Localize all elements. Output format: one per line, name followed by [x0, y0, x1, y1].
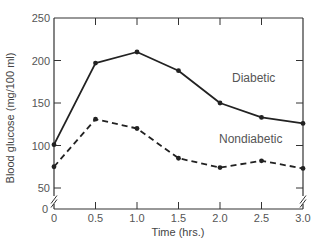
y-tick-label: 50	[38, 182, 50, 194]
data-point	[259, 115, 264, 120]
x-tick-label: 1.5	[171, 212, 186, 224]
data-point	[176, 156, 181, 161]
data-point	[259, 158, 264, 163]
x-tick-label: 0.5	[88, 212, 103, 224]
x-tick-label: 1.0	[129, 212, 144, 224]
nondiabetic-label: Nondiabetic	[219, 132, 282, 146]
data-point	[135, 126, 140, 131]
axis-break-mark	[51, 196, 57, 204]
y-tick-label: 100	[32, 140, 50, 152]
axis-ticks	[54, 18, 303, 209]
series-lines	[52, 50, 306, 171]
series-diabetic-line	[54, 52, 303, 145]
x-tick-label: 2.5	[254, 212, 269, 224]
y-axis-title: Blood glucose (mg/100 ml)	[4, 53, 16, 184]
y-tick-label: 0	[42, 203, 48, 215]
data-point	[301, 166, 306, 171]
x-tick-label: 2.0	[212, 212, 227, 224]
x-tick-label: 0	[51, 212, 57, 224]
glucose-chart: 05010015020025000.51.01.52.02.53.0 Diabe…	[0, 0, 320, 250]
axis-break-mark	[300, 196, 306, 204]
data-point	[218, 101, 223, 106]
data-point	[135, 50, 140, 55]
data-point	[176, 68, 181, 73]
data-point	[52, 164, 57, 169]
y-tick-label: 200	[32, 55, 50, 67]
x-axis-title: Time (hrs.)	[152, 226, 205, 238]
data-point	[93, 61, 98, 66]
y-tick-label: 250	[32, 12, 50, 24]
data-point	[218, 165, 223, 170]
diabetic-label: Diabetic	[232, 71, 275, 85]
y-tick-label: 150	[32, 97, 50, 109]
x-tick-label: 3.0	[295, 212, 310, 224]
data-point	[93, 117, 98, 122]
plot-frame	[51, 18, 306, 209]
data-point	[301, 121, 306, 126]
data-point	[52, 142, 57, 147]
